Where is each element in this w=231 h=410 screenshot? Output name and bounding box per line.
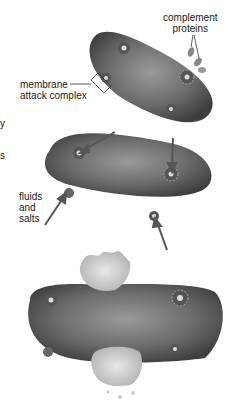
complement-protein-icon — [186, 46, 206, 73]
edge-fragment: s — [0, 150, 5, 161]
label-fluids-and-salts: fluids and salts — [19, 191, 42, 224]
label-line: fluids — [19, 191, 42, 202]
label-line: attack complex — [20, 90, 87, 101]
bacterium-stage-1 — [70, 32, 213, 122]
bacterium-stage-3 — [28, 251, 223, 399]
pore-icon — [45, 294, 57, 306]
bacterium-stage-2 — [45, 132, 212, 250]
pore-icon — [43, 347, 53, 357]
pore-icon — [166, 104, 176, 114]
label-membrane-attack-complex: membrane attack complex — [20, 79, 87, 101]
pore-icon — [180, 70, 194, 84]
label-complement-proteins: complement proteins — [163, 12, 217, 34]
label-line: and — [19, 202, 42, 213]
label-line: proteins — [163, 23, 217, 34]
pore-icon — [172, 290, 188, 306]
pore-icon — [118, 42, 130, 54]
label-line: salts — [19, 213, 42, 224]
pore-icon — [170, 344, 180, 354]
edge-fragment: y — [0, 118, 5, 129]
label-line: membrane — [20, 79, 87, 90]
label-line: complement — [163, 12, 217, 23]
